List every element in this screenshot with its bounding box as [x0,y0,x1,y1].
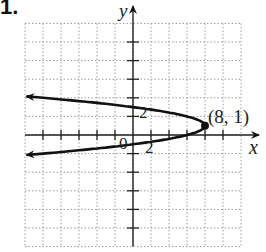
y-tick-label: 2 [139,103,148,123]
origin-label: 0 [119,134,128,154]
y-axis-label: y [119,0,127,22]
vertex-label: (8, 1) [208,106,249,128]
x-tick-label: 2 [145,138,154,158]
x-axis-label: x [249,136,258,159]
parabola-curve [26,96,205,155]
